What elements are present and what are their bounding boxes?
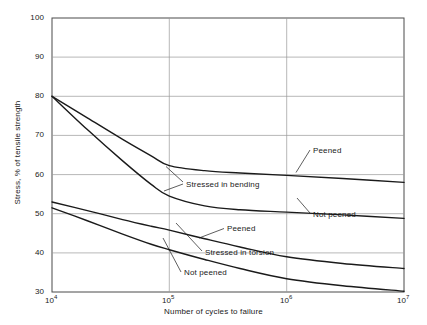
xtick-mantissa: 10 xyxy=(45,296,54,305)
ytick-label-40: 40 xyxy=(22,248,44,257)
annotation-bending-peened: Peened xyxy=(313,146,341,155)
xtick-exponent: 6 xyxy=(289,294,292,300)
ytick-label-80: 80 xyxy=(22,91,44,100)
annotation-torsion-peened: Peened xyxy=(227,224,255,233)
xtick-label-1e6: 106 xyxy=(280,296,293,305)
y-axis-title: Stress, % of tensile strength xyxy=(13,93,22,213)
annotation-stressed-in-torsion: Stressed in torsion xyxy=(205,248,274,257)
annotation-stressed-in-bending: Stressed in bending xyxy=(186,180,260,189)
xtick-exponent: 4 xyxy=(54,294,57,300)
ytick-label-90: 90 xyxy=(22,52,44,61)
xtick-mantissa: 10 xyxy=(280,296,289,305)
ytick-label-60: 60 xyxy=(22,170,44,179)
xtick-label-1e5: 105 xyxy=(162,296,175,305)
ytick-label-70: 70 xyxy=(22,130,44,139)
ytick-label-100: 100 xyxy=(22,13,44,22)
xtick-label-1e4: 104 xyxy=(45,296,58,305)
x-axis-title: Number of cycles to failure xyxy=(0,307,427,316)
annotation-torsion-not-peened: Not peened xyxy=(184,268,227,277)
xtick-mantissa: 10 xyxy=(397,296,406,305)
xtick-exponent: 5 xyxy=(171,294,174,300)
xtick-exponent: 7 xyxy=(406,294,409,300)
ytick-label-50: 50 xyxy=(22,209,44,218)
xtick-mantissa: 10 xyxy=(162,296,171,305)
fatigue-sn-chart: 100 90 80 70 60 50 40 30 104 105 106 107… xyxy=(0,0,427,325)
xtick-label-1e7: 107 xyxy=(397,296,410,305)
annotation-bending-not-peened: Not peened xyxy=(313,210,356,219)
ytick-label-30: 30 xyxy=(22,287,44,296)
